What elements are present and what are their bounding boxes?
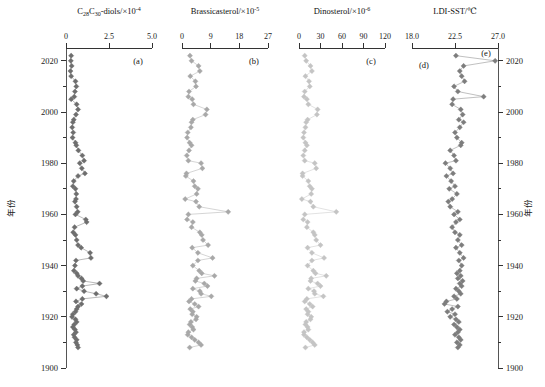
data-point-de bbox=[461, 255, 466, 260]
data-point-a bbox=[82, 171, 87, 176]
data-point-de bbox=[445, 309, 450, 314]
x-tick-label-c-3: 90 bbox=[360, 32, 368, 41]
data-point-b bbox=[210, 255, 215, 260]
data-point-de bbox=[452, 312, 457, 317]
data-point-a bbox=[68, 68, 73, 73]
data-point-b bbox=[190, 219, 195, 224]
data-point-b bbox=[197, 204, 202, 209]
data-point-b bbox=[184, 217, 189, 222]
data-point-c bbox=[306, 286, 311, 291]
data-point-de bbox=[452, 184, 457, 189]
year-tick-label-right-1960: 1960 bbox=[506, 209, 523, 219]
data-point-c bbox=[301, 135, 306, 140]
year-tick-label-left-2020: 2020 bbox=[41, 56, 58, 66]
data-point-de bbox=[453, 53, 458, 58]
data-point-c bbox=[306, 102, 311, 107]
data-point-de bbox=[455, 89, 460, 94]
data-point-de bbox=[459, 74, 464, 79]
data-point-a bbox=[74, 237, 79, 242]
data-point-c bbox=[305, 219, 310, 224]
data-point-de bbox=[461, 63, 466, 68]
data-point-b bbox=[186, 148, 191, 153]
data-point-a bbox=[77, 161, 82, 166]
data-point-b bbox=[188, 125, 193, 130]
data-point-de bbox=[448, 148, 453, 153]
year-axis-title-left: 年份 bbox=[6, 199, 16, 217]
x-tick-label-b-2: 18 bbox=[235, 32, 243, 41]
year-tick-label-left-1920: 1920 bbox=[41, 312, 58, 322]
panel-letter-e: (e) bbox=[481, 48, 491, 58]
data-point-de bbox=[452, 230, 457, 235]
data-point-de bbox=[453, 245, 458, 250]
year-tick-label-right-2000: 2000 bbox=[506, 107, 523, 117]
multi-panel-chart: 2020200019801960194019201900年份2020200019… bbox=[0, 0, 545, 387]
panel-de: LDI-SST/℃18.022.527.0(d)(e) bbox=[405, 6, 505, 350]
data-point-b bbox=[209, 294, 214, 299]
data-point-b bbox=[226, 209, 231, 214]
data-point-de bbox=[450, 307, 455, 312]
data-point-a bbox=[70, 135, 75, 140]
data-point-c bbox=[301, 217, 306, 222]
data-point-de bbox=[455, 304, 460, 309]
data-point-de bbox=[450, 102, 455, 107]
data-point-a bbox=[74, 84, 79, 89]
data-point-b bbox=[189, 225, 194, 230]
data-point-de bbox=[462, 79, 467, 84]
data-point-b bbox=[183, 196, 188, 201]
data-point-c bbox=[314, 166, 319, 171]
data-point-de bbox=[451, 153, 456, 158]
x-tick-label-c-0: 0 bbox=[297, 32, 301, 41]
data-point-a bbox=[73, 112, 78, 117]
data-point-a bbox=[72, 225, 77, 230]
x-tick-label-de-0: 18.0 bbox=[405, 32, 419, 41]
data-point-b bbox=[197, 68, 202, 73]
year-axis-right: 2020200019801960194019201900年份 bbox=[498, 48, 533, 373]
year-tick-label-left-1960: 1960 bbox=[41, 209, 58, 219]
data-point-a bbox=[94, 291, 99, 296]
data-point-c bbox=[303, 125, 308, 130]
figure-container: 2020200019801960194019201900年份2020200019… bbox=[0, 0, 545, 387]
x-tick-label-de-1: 22.5 bbox=[448, 32, 462, 41]
data-point-a bbox=[68, 58, 73, 63]
data-point-c bbox=[302, 53, 307, 58]
data-point-b bbox=[190, 286, 195, 291]
panel-a: C28C30-diols/×10-402.55.0(a) bbox=[64, 6, 157, 351]
data-point-de bbox=[457, 250, 462, 255]
data-point-de bbox=[457, 232, 462, 237]
data-point-a bbox=[71, 130, 76, 135]
data-point-b bbox=[204, 107, 209, 112]
data-point-b bbox=[187, 345, 192, 350]
panel-title-de: LDI-SST/℃ bbox=[433, 6, 477, 16]
data-point-a bbox=[81, 289, 86, 294]
x-tick-label-de-2: 27.0 bbox=[491, 32, 505, 41]
data-point-c bbox=[303, 345, 308, 350]
data-point-a bbox=[72, 263, 77, 268]
data-point-de bbox=[461, 120, 466, 125]
data-point-b bbox=[191, 102, 196, 107]
data-point-b bbox=[187, 53, 192, 58]
data-point-c bbox=[302, 158, 307, 163]
data-point-b bbox=[194, 191, 199, 196]
year-tick-label-right-1980: 1980 bbox=[506, 158, 523, 168]
year-tick-label-right-2020: 2020 bbox=[506, 56, 523, 66]
data-point-c bbox=[315, 107, 320, 112]
data-point-c bbox=[301, 153, 306, 158]
x-tick-label-c-4: 120 bbox=[379, 32, 391, 41]
data-point-b bbox=[185, 130, 190, 135]
year-tick-label-left-1980: 1980 bbox=[41, 158, 58, 168]
data-point-de bbox=[451, 84, 456, 89]
data-point-a bbox=[73, 299, 78, 304]
data-point-b bbox=[193, 199, 198, 204]
x-tick-label-b-0: 0 bbox=[180, 32, 184, 41]
year-tick-label-left-2000: 2000 bbox=[41, 107, 58, 117]
data-point-a bbox=[79, 166, 84, 171]
year-axis-title-right: 年份 bbox=[523, 199, 533, 217]
data-point-de bbox=[447, 186, 452, 191]
data-point-b bbox=[184, 135, 189, 140]
data-point-a bbox=[80, 153, 85, 158]
data-point-de bbox=[450, 171, 455, 176]
panel-title-b: Brassicasterol/×10-5 bbox=[191, 6, 259, 17]
data-point-b bbox=[199, 161, 204, 166]
data-point-a bbox=[69, 53, 74, 58]
data-point-a bbox=[104, 294, 109, 299]
